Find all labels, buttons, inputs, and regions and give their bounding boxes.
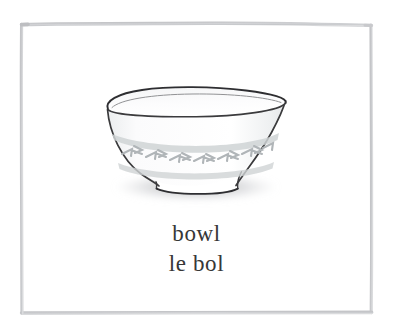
- caption-secondary-french: le bol: [0, 252, 393, 275]
- flashcard-bowl: bowl le bol: [0, 0, 393, 332]
- caption-block: bowl le bol: [0, 222, 393, 275]
- bowl-illustration: [0, 0, 393, 332]
- bowl-rim: [107, 87, 285, 117]
- caption-primary-english: bowl: [0, 222, 393, 245]
